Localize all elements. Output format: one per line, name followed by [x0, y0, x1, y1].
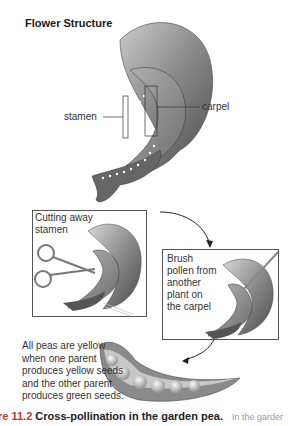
step2-line-2: pollen from	[167, 265, 216, 277]
step1-line-2: stamen	[35, 224, 93, 236]
result-line-1: All peas are yellow	[22, 340, 124, 353]
step-box-cutting-stamen: Cutting away stamen	[32, 210, 147, 317]
scissors-icon	[35, 245, 95, 287]
step2-line-1: Brush	[167, 253, 216, 265]
step2-line-4: plant on	[167, 289, 216, 301]
result-line-4: and the other parent	[22, 378, 124, 391]
figure-number: re 11.2	[0, 410, 32, 422]
figure-caption-continuation: In the garder	[232, 412, 283, 422]
step1-line-1: Cutting away	[35, 212, 93, 224]
figure-caption: re 11.2 Cross-pollination in the garden …	[0, 410, 283, 422]
result-line-2: when one parent	[22, 353, 124, 366]
main-flower-illustration	[92, 23, 213, 202]
step2-line-5: the carpel	[167, 301, 216, 313]
step2-line-3: another	[167, 277, 216, 289]
result-line-5: produces green seeds.	[22, 390, 124, 403]
step-box-brush-pollen: Brush pollen from another plant on the c…	[162, 249, 279, 340]
arrow-step2-to-result	[185, 337, 215, 360]
arrow-step1-to-step2	[160, 212, 210, 245]
result-description: All peas are yellow when one parent prod…	[22, 340, 124, 403]
label-carpel: carpel	[202, 101, 229, 112]
figure-caption-title: Cross-pollination in the garden pea.	[35, 410, 223, 422]
label-stamen: stamen	[64, 111, 97, 122]
result-line-3: produces yellow seeds	[22, 365, 124, 378]
